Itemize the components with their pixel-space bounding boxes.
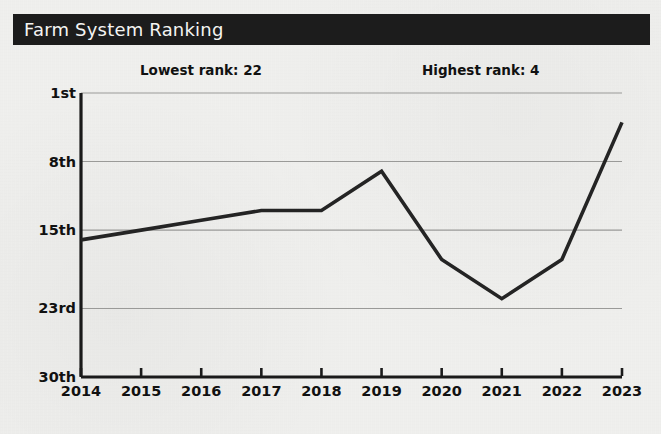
x-axis-tickmarks-group: [81, 368, 622, 376]
y-axis-labels: 1st8th15th23rd30th: [18, 0, 76, 434]
x-axis-label-2015: 2015: [121, 383, 161, 399]
line-chart-svg: [0, 0, 661, 434]
gridlines-group: [81, 93, 622, 308]
x-axis-label-2023: 2023: [602, 383, 642, 399]
y-axis-label-8th: 8th: [49, 154, 76, 170]
x-axis-label-2014: 2014: [61, 383, 101, 399]
plot-area: 1st8th15th23rd30th 201420152016201720182…: [0, 0, 661, 434]
x-axis-label-2017: 2017: [241, 383, 281, 399]
x-axis-label-2022: 2022: [542, 383, 582, 399]
x-axis-label-2020: 2020: [421, 383, 461, 399]
chart-page: Farm System Ranking Lowest rank: 22 High…: [0, 0, 661, 434]
data-series-line: [81, 122, 622, 298]
y-axis-label-1st: 1st: [50, 85, 76, 101]
y-axis-label-23rd: 23rd: [38, 300, 76, 316]
x-axis-label-2016: 2016: [181, 383, 221, 399]
x-axis-label-2019: 2019: [361, 383, 401, 399]
y-axis-label-15th: 15th: [39, 222, 76, 238]
x-axis-label-2018: 2018: [301, 383, 341, 399]
x-axis-label-2021: 2021: [482, 383, 522, 399]
